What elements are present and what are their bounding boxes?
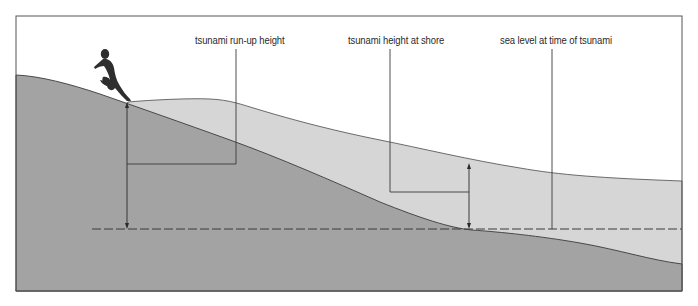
label-shore-height: tsunami height at shore: [348, 34, 444, 46]
label-sea-level: sea level at time of tsunami: [500, 34, 612, 46]
label-runup-height: tsunami run-up height: [195, 34, 285, 46]
